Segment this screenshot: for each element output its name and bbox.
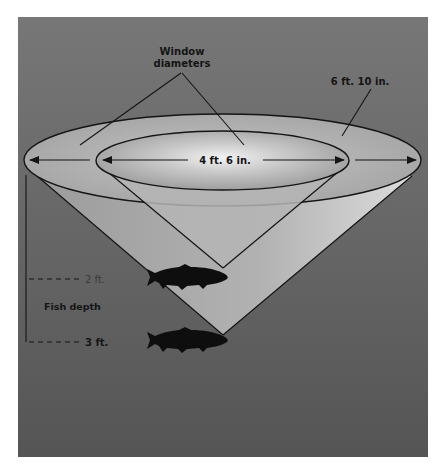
depth-2ft-label: 2 ft. [85,274,105,285]
fish-depth-label: Fish depth [44,301,101,312]
depth-3ft-label: 3 ft. [85,337,108,348]
inner-diameter-label: 4 ft. 6 in. [199,155,251,166]
diagram-panel: Window diameters 6 ft. 10 in. 4 ft. 6 in… [18,17,428,457]
window-diameters-label-1: Window [160,46,205,57]
window-diameters-label-2: diameters [154,58,211,69]
outer-diameter-label: 6 ft. 10 in. [331,76,390,87]
fish-window-diagram: Window diameters 6 ft. 10 in. 4 ft. 6 in… [18,17,428,457]
